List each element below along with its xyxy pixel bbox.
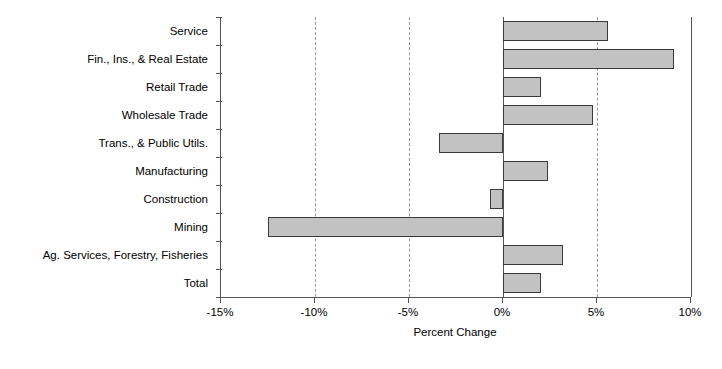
x-axis-ticks bbox=[220, 298, 690, 306]
bar bbox=[439, 133, 503, 153]
percent-change-bar-chart: ServiceFin., Ins., & Real EstateRetail T… bbox=[0, 0, 722, 369]
y-axis-tick bbox=[216, 157, 222, 158]
category-label: Mining bbox=[174, 213, 208, 241]
category-axis-labels: ServiceFin., Ins., & Real EstateRetail T… bbox=[0, 17, 214, 297]
y-axis-tick bbox=[216, 73, 222, 74]
x-axis-tick-label: 10% bbox=[678, 306, 701, 318]
y-axis-tick bbox=[216, 213, 222, 214]
x-axis-tick-label: 5% bbox=[588, 306, 605, 318]
x-axis-tick bbox=[314, 298, 315, 303]
x-axis-tick-label: -15% bbox=[207, 306, 234, 318]
x-axis-tick-label: 0% bbox=[494, 306, 511, 318]
y-axis-tick bbox=[216, 45, 222, 46]
gridline--10 bbox=[315, 17, 316, 297]
gridline-10 bbox=[691, 17, 692, 297]
bar bbox=[503, 273, 541, 293]
x-axis-tick bbox=[596, 298, 597, 303]
bar bbox=[503, 105, 593, 125]
x-axis-tick bbox=[502, 298, 503, 303]
x-axis-tick-label: -10% bbox=[301, 306, 328, 318]
x-axis-tick bbox=[690, 298, 691, 303]
x-axis-tick-label: -5% bbox=[398, 306, 418, 318]
y-axis-tick bbox=[216, 101, 222, 102]
y-axis-tick bbox=[216, 17, 222, 18]
category-label: Total bbox=[184, 269, 208, 297]
x-axis-title: Percent Change bbox=[220, 326, 690, 338]
bar bbox=[503, 161, 548, 181]
plot-inner bbox=[221, 17, 691, 297]
category-label: Manufacturing bbox=[135, 157, 208, 185]
category-label: Trans., & Public Utils. bbox=[99, 129, 209, 157]
y-axis-tick bbox=[216, 129, 222, 130]
bar bbox=[503, 49, 674, 69]
y-axis-tick bbox=[216, 185, 222, 186]
x-axis-tick-labels: -15%-10%-5%0%5%10% bbox=[0, 306, 722, 324]
bar bbox=[503, 245, 563, 265]
bar bbox=[490, 189, 503, 209]
plot-area bbox=[220, 17, 691, 298]
category-label: Fin., Ins., & Real Estate bbox=[87, 45, 208, 73]
bar bbox=[503, 77, 541, 97]
category-label: Ag. Services, Forestry, Fisheries bbox=[43, 241, 208, 269]
category-label: Wholesale Trade bbox=[122, 101, 208, 129]
gridline--5 bbox=[409, 17, 410, 297]
x-axis-tick bbox=[408, 298, 409, 303]
category-label: Construction bbox=[143, 185, 208, 213]
y-axis-tick bbox=[216, 241, 222, 242]
category-label: Retail Trade bbox=[146, 73, 208, 101]
x-axis-tick bbox=[220, 298, 221, 303]
bar bbox=[268, 217, 503, 237]
y-axis-tick bbox=[216, 269, 222, 270]
category-label: Service bbox=[170, 17, 208, 45]
bar bbox=[503, 21, 608, 41]
